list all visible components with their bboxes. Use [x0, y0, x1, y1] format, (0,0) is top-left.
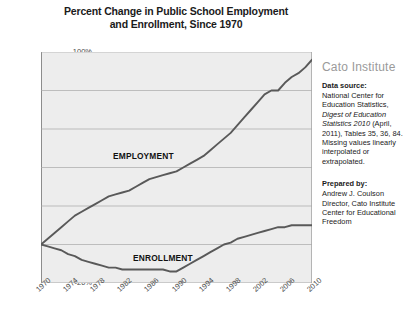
- data-source-heading: Data source:: [322, 81, 408, 90]
- data-source-block: Data source: National Center for Educati…: [322, 81, 408, 166]
- chart-page: Percent Change in Public School Employme…: [0, 0, 409, 313]
- series-line-employment: [41, 60, 312, 245]
- prepared-by-line-3: Center for Educational: [322, 208, 396, 217]
- sidebar: Cato Institute Data source: National Cen…: [322, 60, 408, 227]
- series-lines: [41, 60, 312, 272]
- plot-area: EMPLOYMENT ENROLLMENT: [41, 52, 312, 283]
- series-label-enrollment: ENROLLMENT: [133, 252, 193, 263]
- data-source-line-2: Education Statistics,: [322, 100, 389, 109]
- prepared-by-heading: Prepared by:: [322, 179, 408, 188]
- data-source-italic-2: Statistics 2010: [322, 119, 370, 128]
- data-source-line-4: 2011), Tables 35, 36,: [322, 129, 390, 138]
- prepared-by-line-1: Andrew J. Coulson: [322, 189, 384, 198]
- data-source-italic-1: Digest of Education: [322, 110, 386, 119]
- gridlines: [41, 52, 312, 283]
- data-source-line-7: extrapolated.: [322, 157, 365, 166]
- data-source-body: National Center for Education Statistics…: [322, 91, 408, 166]
- data-source-line-3: (April,: [370, 119, 391, 128]
- prepared-by-block: Prepared by: Andrew J. Coulson Director,…: [322, 179, 408, 227]
- series-line-enrollment: [41, 225, 312, 271]
- data-source-line-1: National Center for: [322, 91, 384, 100]
- series-label-employment: EMPLOYMENT: [113, 150, 174, 161]
- prepared-by-line-2: Director, Cato Institute: [322, 199, 395, 208]
- prepared-by-line-4: Freedom: [322, 217, 352, 226]
- brand-title: Cato Institute: [322, 60, 408, 74]
- prepared-by-body: Andrew J. Coulson Director, Cato Institu…: [322, 189, 408, 227]
- chart-canvas: [41, 52, 312, 283]
